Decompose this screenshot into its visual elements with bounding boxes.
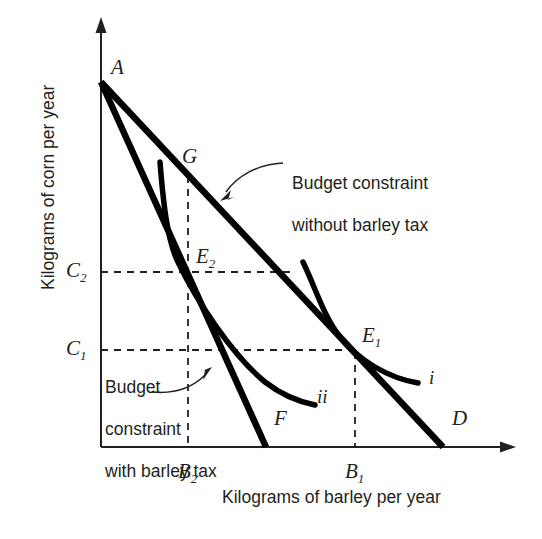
y-axis-title: Kilograms of corn per year	[38, 85, 59, 290]
indifference-curve-i	[303, 262, 418, 383]
point-label-e2: E2	[196, 246, 215, 270]
annotation-without-tax: Budget constraint without barley tax	[292, 152, 428, 257]
economics-indifference-curve-figure: A G E2 E1 F D C2 C1 B2 B1 i ii Budget co…	[0, 0, 542, 539]
annotation-with-tax-line2: constraint	[105, 419, 217, 440]
y-tick-label-c1-main: C	[66, 336, 80, 360]
point-label-e1-sub: 1	[375, 335, 382, 350]
point-label-f: F	[274, 408, 287, 429]
y-tick-label-c1-sub: 1	[80, 348, 87, 363]
y-tick-label-c1: C1	[66, 338, 87, 362]
x-axis-title: Kilograms of barley per year	[222, 487, 441, 508]
y-axis-arrow-icon	[96, 17, 107, 33]
y-tick-label-c2: C2	[66, 260, 87, 284]
point-label-e1-main: E	[362, 323, 375, 347]
x-tick-label-b1: B1	[345, 461, 364, 485]
x-tick-label-b1-main: B	[345, 459, 358, 483]
x-axis-arrow-icon	[500, 442, 516, 453]
annotation-without-tax-line2: without barley tax	[292, 215, 428, 236]
point-label-g: G	[182, 146, 197, 167]
point-label-a: A	[111, 57, 124, 78]
curve-label-ii: ii	[317, 386, 328, 408]
annotation-with-tax: Budget constraint with barley tax	[105, 356, 217, 503]
y-tick-label-c2-main: C	[66, 258, 80, 282]
curve-label-i: i	[429, 367, 434, 389]
point-label-e2-main: E	[196, 244, 209, 268]
leader-without-tax	[220, 163, 283, 201]
annotation-with-tax-line1: Budget	[105, 377, 217, 398]
point-label-d: D	[452, 408, 467, 429]
point-label-e2-sub: 2	[209, 256, 216, 271]
annotation-with-tax-line3: with barley tax	[105, 461, 217, 482]
y-tick-label-c2-sub: 2	[80, 270, 87, 285]
x-tick-label-b1-sub: 1	[358, 471, 365, 486]
annotation-without-tax-line1: Budget constraint	[292, 173, 428, 194]
point-label-e1: E1	[362, 325, 381, 349]
